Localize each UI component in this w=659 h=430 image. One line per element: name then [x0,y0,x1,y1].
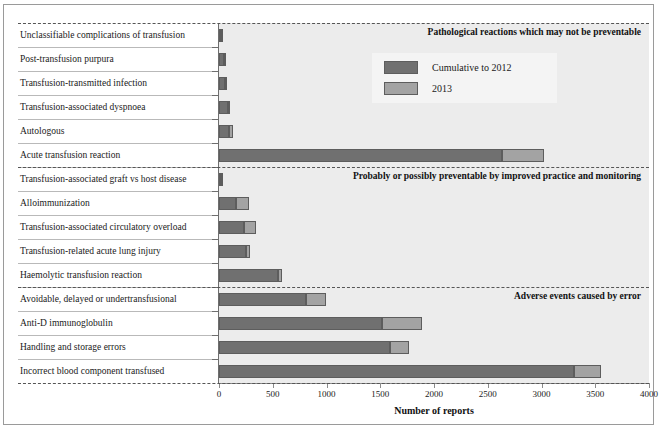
legend-item-2013: 2013 [384,82,452,95]
y-axis-tick [212,311,218,312]
y-axis-tick [212,191,218,192]
bar-segment-2013 [224,53,226,66]
x-axis-title: Number of reports [219,405,649,416]
category-label: Acute transfusion reaction [18,143,216,168]
bar-segment-2013 [574,365,601,378]
x-axis-tick-label: 0 [199,389,239,399]
x-axis-tick-label: 3000 [522,389,562,399]
legend-swatch-2013 [384,82,418,95]
bar-segment-2013 [229,125,233,138]
category-label: Alloimmunization [18,191,216,216]
bar-segment-2013 [225,77,227,90]
bar-segment-cumulative [219,197,236,210]
x-axis-tick-label: 1500 [360,389,400,399]
y-axis-tick [212,335,218,336]
x-axis-tick-label: 2500 [468,389,508,399]
bar-group [219,149,649,162]
x-axis-tick-label: 500 [253,389,293,399]
bar-segment-2013 [228,101,231,114]
bar-segment-2013 [221,29,223,42]
bar-segment-2013 [236,197,248,210]
group-separator [18,383,649,384]
bar-segment-cumulative [219,245,246,258]
bar-segment-2013 [246,245,250,258]
bar-segment-cumulative [219,269,278,282]
y-axis-tick [212,47,218,48]
legend-label-cumulative: Cumulative to 2012 [432,62,511,73]
bar-group [219,125,649,138]
category-label: Anti-D immunoglobulin [18,311,216,336]
bar-segment-2013 [221,173,223,186]
category-label-column: Unclassifiable complications of transfus… [18,23,218,383]
chart-frame: Unclassifiable complications of transfus… [3,4,654,425]
x-axis-tick-label: 1000 [307,389,347,399]
bar-segment-cumulative [219,221,244,234]
bar-segment-cumulative [219,149,502,162]
x-axis-tick-label: 4000 [629,389,659,399]
category-label: Autologous [18,119,216,144]
group-separator [18,287,649,288]
bar-group [219,269,649,282]
x-axis-tick [649,383,650,388]
bar-segment-2013 [382,317,422,330]
group-separator [18,23,649,24]
category-label: Transfusion-associated dyspnoea [18,95,216,120]
x-axis-tick-label: 3500 [575,389,615,399]
y-axis-tick [212,143,218,144]
bar-group [219,341,649,354]
category-label: Handling and storage errors [18,335,216,360]
y-axis-tick [212,263,218,264]
bar-segment-cumulative [219,365,574,378]
legend-item-cumulative: Cumulative to 2012 [384,61,511,74]
y-axis-tick [212,239,218,240]
chart-legend: Cumulative to 2012 2013 [372,53,557,103]
category-label: Avoidable, delayed or undertransfusional [18,287,216,312]
legend-label-2013: 2013 [432,83,452,94]
y-axis-tick [212,71,218,72]
category-label: Unclassifiable complications of transfus… [18,23,216,48]
bar-group [219,245,649,258]
bar-segment-2013 [502,149,544,162]
y-axis-tick [212,359,218,360]
y-axis-tick [212,215,218,216]
bar-group [219,317,649,330]
category-label: Haemolytic transfusion reaction [18,263,216,288]
bar-group [219,197,649,210]
category-label: Post-transfusion purpura [18,47,216,72]
bar-segment-2013 [390,341,409,354]
group-heading: Pathological reactions which may not be … [229,27,641,37]
bar-segment-2013 [278,269,283,282]
group-heading: Probably or possibly preventable by impr… [229,171,641,181]
bar-segment-cumulative [219,317,382,330]
category-label: Incorrect blood component transfused [18,359,216,384]
category-label: Transfusion-related acute lung injury [18,239,216,264]
x-axis-tick-label: 2000 [414,389,454,399]
bar-group [219,365,649,378]
y-axis-tick [212,95,218,96]
bar-segment-cumulative [219,101,228,114]
bar-segment-cumulative [219,341,390,354]
category-label: Transfusion-transmitted infection [18,71,216,96]
legend-swatch-cumulative [384,61,418,74]
group-separator [18,167,649,168]
bar-segment-2013 [244,221,256,234]
y-axis-tick [212,119,218,120]
category-label: Transfusion-associated circulatory overl… [18,215,216,240]
group-heading: Adverse events caused by error [229,291,641,301]
bar-segment-cumulative [219,125,229,138]
bar-group [219,221,649,234]
category-label: Transfusion-associated graft vs host dis… [18,167,216,192]
